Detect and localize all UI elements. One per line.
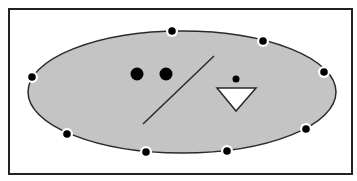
perimeter-dot xyxy=(259,37,267,45)
ellipse-shape xyxy=(28,31,336,153)
perimeter-dot xyxy=(302,125,310,133)
perimeter-dot xyxy=(142,148,150,156)
perimeter-dot xyxy=(63,130,71,138)
perimeter-dot xyxy=(223,147,231,155)
eye-dot xyxy=(160,68,173,81)
small-dot xyxy=(233,76,240,83)
diagram-canvas xyxy=(0,0,357,181)
eye-dot xyxy=(131,68,144,81)
perimeter-dot xyxy=(168,27,176,35)
perimeter-dot xyxy=(320,68,328,76)
perimeter-dot xyxy=(28,73,36,81)
